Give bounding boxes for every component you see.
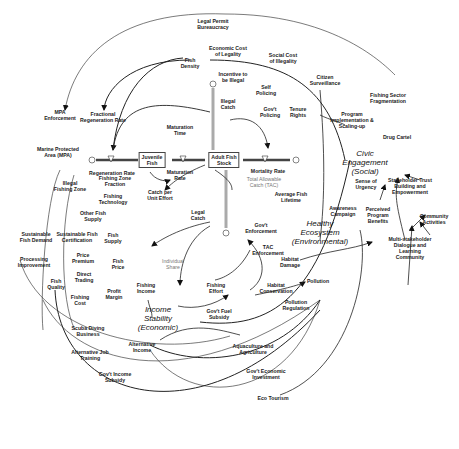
scuba-diving-business: Scuba Diving Business	[72, 325, 105, 337]
incentive-to-be-illegal: Incentive to be Illegal	[219, 71, 248, 83]
pollution: Pollution	[307, 278, 329, 284]
eco-tourism: Eco Tourism	[257, 395, 288, 401]
fishing-effort: Fishing Effort	[207, 282, 225, 294]
illegal-fishing-zone: Illegal Fishing Zone	[54, 180, 86, 192]
social-cost-illegality: Social Cost of Illegality	[269, 52, 297, 64]
mortality-rate: Mortality Rate	[251, 168, 285, 174]
direct-trading: Direct Trading	[75, 271, 94, 283]
govt-fuel-subsidy: Gov't Fuel Subsidy	[206, 308, 231, 320]
fish-price: Fish Price	[112, 258, 125, 270]
economic-cost-legality: Economic Cost of Legality	[209, 45, 247, 57]
income-stability: Income Stability (Economic)	[138, 305, 178, 332]
fractional-regeneration-rate: Fractional Regeneration Rate	[80, 111, 126, 123]
citizen-surveillance: Citizen Surveillance	[310, 74, 341, 86]
tac-enforcement: TAC Enforcement	[252, 244, 284, 256]
individual-share: Individual Share	[162, 258, 184, 270]
self-policing: Self Policing	[256, 84, 276, 96]
fish-supply: Fish Supply	[104, 232, 121, 244]
marine-protected-area: Marine Protected Area (MPA)	[37, 146, 79, 158]
fishing-zone-fraction: Fishing Zone Fraction	[99, 175, 131, 187]
fishing-sector-fragmentation: Fishing Sector Fragmentation	[370, 92, 406, 104]
awareness-campaign: Awareness Campaign	[329, 205, 356, 217]
total-allowable-catch: Total Allowable Catch (TAC)	[247, 176, 281, 188]
sustainable-fish-certification: Sustainable Fish Certification	[56, 231, 97, 243]
processing-improvement: Processing Improvement	[18, 256, 51, 268]
habitat-damage: Habitat Damage	[280, 256, 300, 268]
sustainable-fish-demand: Sustainable Fish Demand	[20, 231, 53, 243]
govt-enforcement: Gov't Enforcement	[245, 222, 277, 234]
maturation-rate: Maturation Rate	[167, 169, 194, 181]
average-fish-lifetime: Average Fish Lifetime	[275, 191, 307, 203]
stock-adult-fish: Adult Fish Stock	[208, 152, 239, 168]
program-implementation: Program Implementation & Scaling-up	[330, 111, 374, 129]
legal-permit-bureaucracy: Legal Permit Bureaucracy	[197, 18, 228, 30]
catch-per-unit-effort: Catch per Unit Effort	[147, 189, 172, 201]
fish-density: Fish Density	[181, 57, 200, 69]
pollution-regulation: Pollution Regulation	[283, 299, 310, 311]
profit-margin: Profit Margin	[105, 288, 122, 300]
community-activities: Community Activities	[420, 213, 449, 225]
fish-quality: Fish Quality	[47, 278, 65, 290]
sense-of-urgency: Sense of Urgency	[355, 178, 377, 190]
govt-policing: Gov't Policing	[260, 106, 280, 118]
illegal-catch: Illegal Catch	[221, 98, 236, 110]
fishing-income: Fishing Income	[137, 282, 155, 294]
price-premium: Price Premium	[72, 252, 94, 264]
maturation-time: Maturation Time	[167, 124, 194, 136]
alternative-job-training: Alternative Job Training	[71, 349, 108, 361]
fishing-technology: Fishing Technology	[99, 193, 128, 205]
other-fish-supply: Other Fish Supply	[80, 210, 106, 222]
govt-economic-investment: Gov't Economic Investment	[246, 368, 285, 380]
tenure-rights: Tenure Rights	[290, 106, 307, 118]
aquaculture-agriculture: Aquaculture and Agriculture	[233, 343, 274, 355]
legal-catch: Legal Catch	[191, 209, 205, 221]
causal-loop-diagram: Juvenile Fish Adult Fish Stock Regenerat…	[0, 0, 459, 449]
alternative-income: Alternative Income	[129, 341, 156, 353]
stakeholder-trust-building: Stakeholder Trust Building and Empowerme…	[388, 177, 432, 195]
mpa-enforcement: MPA Enforcement	[44, 109, 76, 121]
multi-stakeholder-dialogue: Multi-stakeholder Dialogue and Learning …	[389, 236, 432, 260]
healthy-ecosystem: Healthy Ecosystem (Environmental)	[292, 219, 348, 246]
diagram-arrows	[0, 0, 459, 449]
perceived-program-benefits: Perceived Program Benefits	[366, 206, 391, 224]
govt-income-subsidy: Gov't Income Subsidy	[99, 371, 132, 383]
drug-cartel: Drug Cartel	[383, 134, 411, 140]
stock-juvenile-fish: Juvenile Fish	[139, 152, 166, 168]
fishing-cost: Fishing Cost	[71, 294, 89, 306]
civic-engagement: Civic Engagement (Social)	[342, 149, 387, 176]
habitat-conservation: Habitat Conservation	[259, 282, 292, 294]
